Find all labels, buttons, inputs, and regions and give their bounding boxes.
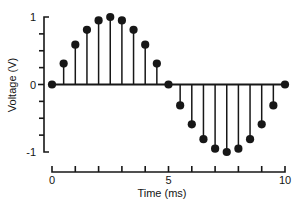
x-tick-label: 0 [49,174,55,186]
x-axis [52,166,285,172]
data-point-marker [60,59,68,67]
data-point-marker [83,26,91,34]
data-point-marker [246,135,254,143]
y-axis [38,17,49,152]
data-point-marker [258,120,266,128]
y-axis-title: Voltage (V) [6,58,18,112]
data-point-marker [223,148,231,156]
data-point-marker [211,145,219,153]
y-tick-label: -1 [26,146,36,158]
data-point-marker [118,16,126,24]
data-point-marker [106,13,114,21]
data-point-marker [199,135,207,143]
data-point-marker [71,41,79,49]
y-axis-tick-labels: 10-1 [26,11,36,158]
data-point-marker [48,80,56,88]
data-point-marker [95,16,103,24]
data-point-marker [153,59,161,67]
data-point-marker [129,26,137,34]
data-point-marker [141,41,149,49]
data-point-marker [281,80,289,88]
data-point-marker [188,120,196,128]
data-point-marker [176,101,184,109]
x-tick-label: 10 [279,174,291,186]
x-axis-tick-labels: 0510 [49,174,291,186]
y-tick-label: 1 [30,11,36,23]
y-tick-label: 0 [30,79,36,91]
chart-canvas: 10-1 Voltage (V) 0510 Time (ms) [0,0,301,202]
x-axis-title: Time (ms) [137,187,186,199]
data-point-marker [164,80,172,88]
x-tick-label: 5 [165,174,171,186]
data-point-marker [269,101,277,109]
stem-plot-figure: 10-1 Voltage (V) 0510 Time (ms) [0,0,301,202]
data-point-marker [234,145,242,153]
